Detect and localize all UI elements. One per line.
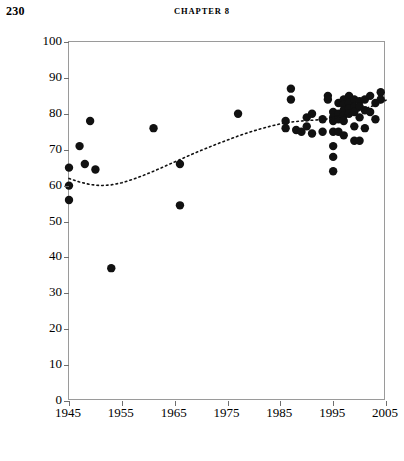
y-tick-label: 50 (49, 213, 62, 229)
y-tick (64, 329, 69, 330)
data-point (340, 131, 348, 139)
x-tick-label: 1965 (161, 405, 187, 421)
y-tick (64, 114, 69, 115)
data-point (361, 124, 369, 132)
x-axis-tick-labels: 1945195519651975198519952005 (68, 405, 385, 427)
y-tick-label: 20 (49, 320, 62, 336)
book-page: 230 CHAPTER 8 Support (%) 01020304050607… (0, 0, 404, 461)
y-tick-label: 10 (49, 356, 62, 372)
y-tick-label: 70 (49, 141, 62, 157)
y-tick (64, 186, 69, 187)
data-point (287, 95, 295, 103)
y-tick-label: 30 (49, 284, 62, 300)
y-tick (64, 257, 69, 258)
data-point (329, 142, 337, 150)
y-tick (64, 150, 69, 151)
data-point (86, 117, 94, 125)
x-tick-label: 1955 (108, 405, 134, 421)
chapter-header: CHAPTER 8 (0, 6, 404, 16)
y-tick (64, 222, 69, 223)
data-point (366, 108, 374, 116)
plot-canvas (69, 42, 386, 401)
y-tick-label: 90 (49, 69, 62, 85)
data-point (318, 128, 326, 136)
data-point (107, 264, 115, 272)
y-tick (64, 78, 69, 79)
x-tick-label: 1985 (266, 405, 292, 421)
x-tick-label: 1945 (55, 405, 81, 421)
scatter-plot-figure: Support (%) 0102030405060708090100 19451… (0, 24, 404, 461)
data-point (65, 163, 73, 171)
x-tick-label: 2005 (372, 405, 398, 421)
data-point (149, 124, 157, 132)
data-point (371, 115, 379, 123)
data-point (176, 201, 184, 209)
y-tick (64, 42, 69, 43)
x-tick-label: 1975 (214, 405, 240, 421)
y-axis-tick-labels: 0102030405060708090100 (16, 41, 62, 400)
data-point (350, 122, 358, 130)
data-point (65, 196, 73, 204)
data-point (366, 92, 374, 100)
data-point (308, 110, 316, 118)
plot-frame (68, 41, 385, 400)
data-point (308, 129, 316, 137)
x-tick-label: 1995 (319, 405, 345, 421)
y-tick-label: 60 (49, 177, 62, 193)
data-point (176, 160, 184, 168)
data-point (234, 110, 242, 118)
data-point (303, 122, 311, 130)
data-point (340, 117, 348, 125)
y-tick (64, 293, 69, 294)
y-tick (64, 365, 69, 366)
data-point (329, 153, 337, 161)
data-point (377, 88, 385, 96)
data-point (355, 113, 363, 121)
data-point (329, 167, 337, 175)
y-tick-label: 80 (49, 105, 62, 121)
data-point (355, 137, 363, 145)
data-point (91, 165, 99, 173)
data-point (281, 124, 289, 132)
data-point (287, 84, 295, 92)
data-point (81, 160, 89, 168)
data-point (75, 142, 83, 150)
y-tick-label: 100 (43, 33, 63, 49)
plot-area (69, 42, 384, 399)
data-point (324, 95, 332, 103)
running-head: 230 CHAPTER 8 (0, 0, 404, 24)
y-tick-label: 40 (49, 248, 62, 264)
